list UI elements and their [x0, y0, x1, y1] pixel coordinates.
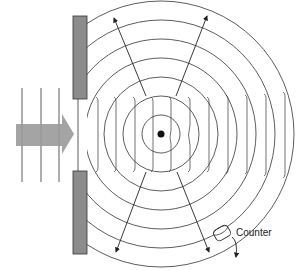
upper-slit-barrier — [73, 16, 87, 99]
counter-icon — [212, 224, 232, 242]
counter-label: Counter — [236, 227, 272, 238]
scatterer-dot — [158, 131, 165, 138]
transmitted-plane-waves — [96, 92, 285, 178]
incoming-beam-arrow — [16, 114, 74, 154]
lower-slit-barrier — [73, 171, 87, 254]
counter-cable — [232, 237, 237, 257]
